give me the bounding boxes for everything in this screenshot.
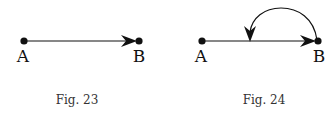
node-b-label: B (133, 46, 146, 66)
node-a-label: A (194, 46, 208, 66)
figure-caption: Fig. 23 (56, 93, 99, 107)
node-b-dot (135, 37, 142, 44)
curved-arrowhead-icon (244, 26, 256, 42)
node-a-label: A (16, 46, 30, 66)
figures-canvas: A B Fig. 23 A B Fig. 24 (0, 0, 336, 116)
node-b-label: B (313, 46, 326, 66)
figure-24: A B Fig. 24 (194, 8, 325, 107)
node-b-dot (314, 37, 321, 44)
node-a-dot (20, 37, 27, 44)
curved-edge-b-to-mid (250, 8, 317, 40)
figure-23: A B Fig. 23 (16, 35, 145, 107)
node-a-dot (198, 37, 205, 44)
figure-caption: Fig. 24 (243, 93, 286, 107)
